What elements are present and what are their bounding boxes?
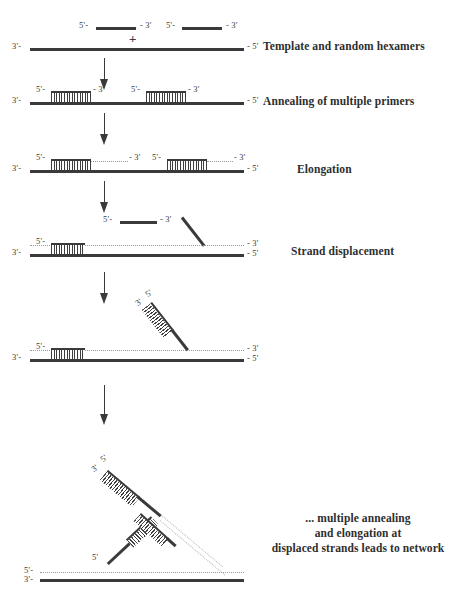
- arrow-5: [100, 385, 109, 427]
- plus-sign: +: [129, 31, 136, 47]
- template2-three-prime-label: 3'-: [12, 95, 21, 105]
- caption-stage-3: Elongation: [297, 163, 352, 175]
- arrow-2: [100, 113, 109, 145]
- primer2-three-prime-label: - 3': [226, 20, 238, 30]
- mda-diagram-page: { "diagram": { "title": "Multiple displa…: [0, 0, 467, 597]
- network-branch-left-five-prime-label: 5': [92, 552, 98, 562]
- elongated1-five-prime-label: 5'-: [36, 152, 45, 162]
- annealed1-three-prime-label: - 3': [93, 84, 105, 94]
- annealed-primer-3: [51, 243, 85, 254]
- primer1-five-prime-label: 5'-: [79, 20, 88, 30]
- primer1-three-prime-label: - 3': [140, 20, 152, 30]
- template5-three-prime-label: 3'-: [12, 352, 21, 362]
- free-primer-1: [96, 27, 136, 30]
- network-five-prime-label: 5': [98, 452, 109, 464]
- template-strand-1: [30, 48, 244, 51]
- network-three-prime-label: 3': [89, 462, 100, 474]
- annealed-primer-2: [146, 91, 186, 102]
- free-primer-3: [120, 221, 157, 224]
- template1-five-prime-label: - 5': [247, 41, 259, 51]
- displaced-strand-1: [181, 217, 206, 247]
- network-connector-dotted: [160, 520, 226, 575]
- displaced-duplex-1-hatch: [142, 302, 174, 338]
- elongated-primer-1: [51, 159, 91, 170]
- template-strand-5: [30, 359, 244, 362]
- template4-three-prime-label: 3'-: [12, 247, 21, 257]
- free-primer3-three-prime-label: - 3': [160, 214, 172, 224]
- caption-stage-6-line-1: ... multiple annealing: [252, 511, 464, 526]
- template-strand-2: [30, 102, 244, 105]
- caption-stage-6: ... multiple annealing and elongation at…: [252, 511, 464, 557]
- template1-three-prime-label: 3'-: [12, 41, 21, 51]
- caption-stage-2: Annealing of multiple primers: [263, 95, 414, 107]
- template-strand-6: [40, 579, 244, 582]
- arrow-3: [100, 181, 109, 213]
- network-branch-right-tail: [166, 537, 177, 547]
- network-duplex-top-hatch: [100, 470, 141, 507]
- annealed2-three-prime-label: - 3': [188, 84, 200, 94]
- caption-stage-1: Template and random hexamers: [263, 40, 425, 52]
- template-strand-4: [30, 254, 244, 257]
- elongated-primer-2: [167, 159, 207, 170]
- template3-three-prime-label: 3'-: [12, 163, 21, 173]
- annealed-primer-4: [51, 348, 85, 359]
- template-strand-3: [30, 170, 244, 173]
- elongated1-three-prime-label: - 3': [129, 152, 141, 162]
- displaced2-three-prime-label: 3': [133, 296, 144, 308]
- annealed-primer-1: [51, 91, 91, 102]
- annealed2-five-prime-label: 5'-: [131, 84, 140, 94]
- caption-stage-6-line-2: and elongation at: [252, 526, 464, 541]
- caption-stage-6-line-3: displaced strands leads to network: [252, 541, 464, 556]
- elongated2-five-prime-label: 5'-: [152, 152, 161, 162]
- template4-three-prime-right-label: - 3': [247, 238, 259, 248]
- displaced2-five-prime-label: 5': [143, 287, 154, 299]
- displaced-duplex-1-tail: [171, 329, 189, 351]
- template2-five-prime-label: - 5': [247, 95, 259, 105]
- free-primer3-five-prime-label: 5'-: [103, 214, 112, 224]
- arrow-4: [100, 272, 109, 304]
- annealed3-five-prime-label: 5'-: [36, 236, 45, 246]
- template5-five-prime-right-label: - 5': [247, 353, 259, 363]
- primer2-five-prime-label: 5'-: [166, 20, 175, 30]
- template4-five-prime-right-label: - 5': [247, 248, 259, 258]
- template6-three-prime-label: 3'-: [24, 574, 33, 584]
- new-strand-1: [91, 161, 128, 162]
- annealed4-five-prime-label: 5'-: [36, 341, 45, 351]
- template3-five-prime-label: - 5': [247, 163, 259, 173]
- template5-three-prime-right-label: - 3': [247, 343, 259, 353]
- caption-stage-4: Strand displacement: [291, 245, 394, 257]
- network-branch-left-tail: [107, 541, 132, 565]
- new-strand-2: [207, 161, 233, 162]
- elongated2-three-prime-label: - 3': [234, 152, 246, 162]
- new-strand-5: [40, 572, 244, 573]
- annealed1-five-prime-label: 5'-: [36, 84, 45, 94]
- free-primer-2: [182, 27, 222, 30]
